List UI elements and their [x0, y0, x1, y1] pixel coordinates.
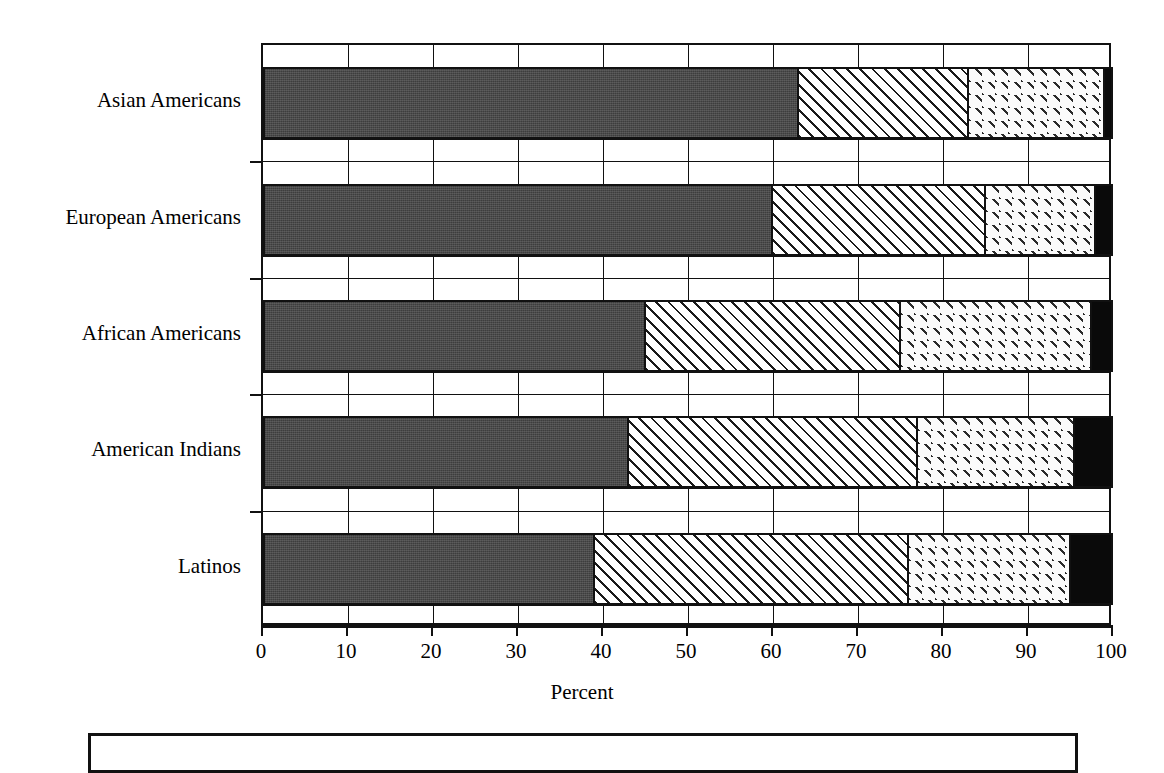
x-tick-70 — [856, 625, 858, 636]
x-tick-label-100: 100 — [1095, 641, 1127, 662]
category-separator-3 — [263, 394, 1109, 395]
category-label-0: Asian Americans — [0, 90, 241, 111]
x-tick-label-10: 10 — [336, 641, 357, 662]
bar-segment-segment-3 — [969, 67, 1105, 139]
category-tick-4 — [250, 511, 262, 513]
bar-segment-segment-1 — [263, 184, 773, 256]
bar-segment-segment-4 — [1096, 184, 1113, 256]
bar-segment-segment-4 — [1105, 67, 1114, 139]
x-tick-label-50: 50 — [676, 641, 697, 662]
bar-segment-segment-3 — [918, 416, 1075, 488]
bar-segment-segment-2 — [629, 416, 918, 488]
bar-row — [263, 67, 1109, 139]
category-separator-4 — [263, 511, 1109, 512]
bar-row — [263, 533, 1109, 605]
bar-segment-segment-3 — [909, 533, 1071, 605]
bar-segment-segment-1 — [263, 67, 799, 139]
x-tick-label-60: 60 — [761, 641, 782, 662]
x-tick-label-0: 0 — [256, 641, 267, 662]
category-tick-1 — [250, 161, 262, 163]
category-label-1: European Americans — [0, 207, 241, 228]
bar-segment-segment-3 — [901, 300, 1092, 372]
bar-segment-segment-2 — [773, 184, 986, 256]
x-tick-label-40: 40 — [591, 641, 612, 662]
category-label-4: Latinos — [0, 556, 241, 577]
bar-row — [263, 300, 1109, 372]
category-tick-3 — [250, 394, 262, 396]
x-tick-label-80: 80 — [931, 641, 952, 662]
bar-segment-segment-1 — [263, 300, 646, 372]
bar-row — [263, 184, 1109, 256]
x-tick-100 — [1111, 625, 1113, 636]
category-label-2: African Americans — [0, 323, 241, 344]
category-tick-2 — [250, 278, 262, 280]
bar-segment-segment-4 — [1071, 533, 1114, 605]
x-tick-0 — [261, 625, 263, 636]
x-tick-50 — [686, 625, 688, 636]
bar-segment-segment-4 — [1075, 416, 1113, 488]
plot-area — [261, 43, 1111, 625]
gridline-y-1-1 — [263, 256, 1109, 257]
x-tick-90 — [1026, 625, 1028, 636]
bar-segment-segment-1 — [263, 533, 595, 605]
bar-segment-segment-2 — [646, 300, 901, 372]
gridline-y-3-1 — [263, 488, 1109, 489]
x-tick-label-90: 90 — [1016, 641, 1037, 662]
gridline-y-2-1 — [263, 372, 1109, 373]
bar-segment-segment-3 — [986, 184, 1097, 256]
gridline-y-0-1 — [263, 139, 1109, 140]
x-tick-label-70: 70 — [846, 641, 867, 662]
category-label-3: American Indians — [0, 439, 241, 460]
x-tick-label-20: 20 — [421, 641, 442, 662]
x-tick-label-30: 30 — [506, 641, 527, 662]
bar-segment-segment-2 — [799, 67, 969, 139]
bar-segment-segment-1 — [263, 416, 629, 488]
x-axis-title: Percent — [0, 682, 1164, 703]
category-separator-1 — [263, 161, 1109, 162]
legend-box — [88, 733, 1078, 773]
gridline-y-4-1 — [263, 605, 1109, 606]
category-separator-2 — [263, 278, 1109, 279]
x-tick-30 — [516, 625, 518, 636]
bar-segment-segment-2 — [595, 533, 910, 605]
x-tick-60 — [771, 625, 773, 636]
x-tick-20 — [431, 625, 433, 636]
x-tick-10 — [346, 625, 348, 636]
x-tick-80 — [941, 625, 943, 636]
bar-segment-segment-4 — [1092, 300, 1113, 372]
bar-row — [263, 416, 1109, 488]
x-tick-40 — [601, 625, 603, 636]
